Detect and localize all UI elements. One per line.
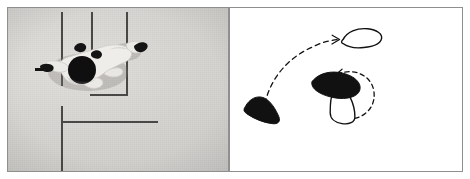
foot-filled-center — [312, 72, 360, 98]
right-panel-schematic — [229, 7, 463, 172]
foot-filled-left — [244, 97, 279, 124]
floor-line-vertical-4 — [61, 106, 63, 171]
floor-line-horizontal-2 — [61, 121, 158, 123]
floor-line-horizontal-1 — [90, 94, 128, 96]
person-overhead — [30, 32, 152, 94]
foot-outline-top — [342, 29, 382, 48]
figure-root — [0, 0, 470, 179]
schematic-drawing — [230, 8, 462, 171]
left-panel-photograph — [7, 7, 229, 172]
